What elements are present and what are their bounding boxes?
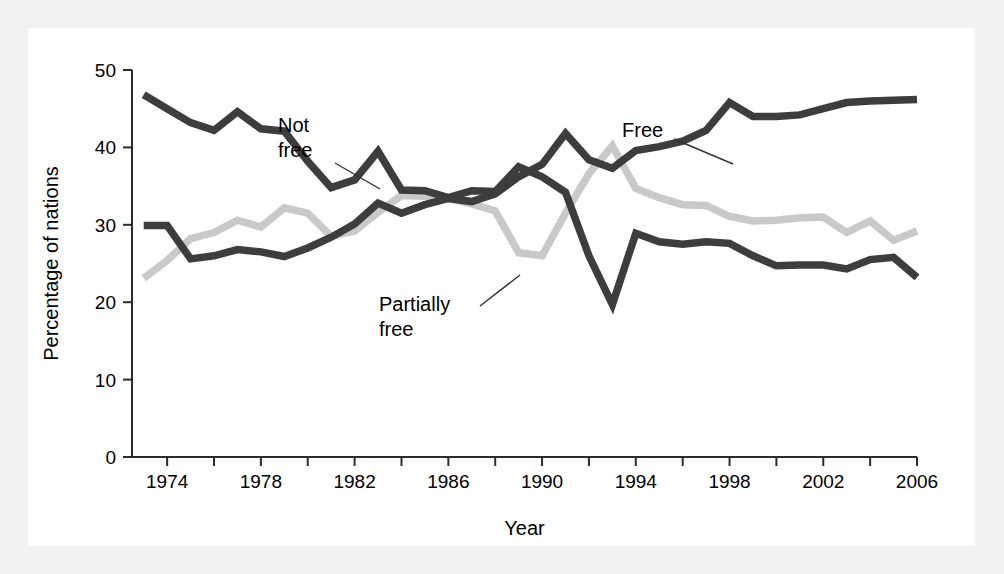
y-tick-label: 10: [95, 370, 116, 391]
x-tick-label: 1978: [240, 471, 282, 492]
y-axis-title: Percentage of nations: [40, 166, 62, 361]
x-tick-label: 2006: [896, 471, 938, 492]
series-line-not-free: [144, 95, 917, 305]
x-axis-title: Year: [504, 517, 545, 539]
chart-panel: 0102030405019741978198219861990199419982…: [28, 28, 975, 546]
annotation-label: free: [379, 318, 413, 340]
x-tick-label: 1998: [708, 471, 750, 492]
annotation-label: Not: [278, 114, 310, 136]
series-line-partially-free: [144, 146, 917, 278]
x-tick-label: 1994: [615, 471, 658, 492]
y-tick-label: 40: [95, 137, 116, 158]
annotation-label: free: [278, 139, 312, 161]
series-line-free: [144, 99, 917, 258]
annotation-partially-free: Partiallyfree: [379, 275, 520, 340]
y-tick-label: 50: [95, 60, 116, 81]
annotation-leader-line: [480, 275, 520, 306]
y-tick-label: 30: [95, 215, 116, 236]
x-tick-label: 1990: [521, 471, 563, 492]
annotation-label: Free: [622, 119, 663, 141]
y-tick-label: 20: [95, 292, 116, 313]
x-tick-label: 2002: [802, 471, 844, 492]
annotation-not-free: Notfree: [278, 114, 380, 189]
line-chart: 0102030405019741978198219861990199419982…: [28, 28, 975, 546]
x-tick-label: 1986: [427, 471, 469, 492]
annotation-label: Partially: [379, 293, 450, 315]
x-tick-label: 1974: [146, 471, 189, 492]
figure-root: 0102030405019741978198219861990199419982…: [0, 0, 1004, 574]
annotation-leader-line: [674, 139, 733, 164]
y-tick-label: 0: [105, 447, 116, 468]
x-tick-label: 1982: [333, 471, 375, 492]
